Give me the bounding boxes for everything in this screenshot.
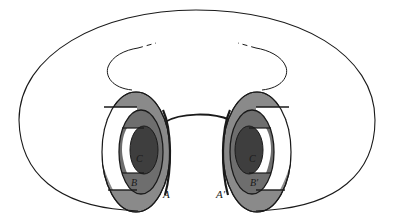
- label-right-a: A′: [215, 188, 226, 200]
- inner-hole-loop-left: [107, 48, 138, 90]
- inner-hole-loop-left-dash: [138, 43, 156, 48]
- label-right-c: C: [249, 153, 256, 164]
- inner-hole-loop-right: [256, 48, 287, 90]
- right-cuff: [223, 92, 292, 212]
- label-left-a: A: [162, 188, 170, 200]
- outer-contour: [19, 10, 375, 210]
- right-region-c: [235, 126, 263, 174]
- label-left-c: C: [136, 153, 143, 164]
- left-cuff: [101, 92, 170, 212]
- bridge-curve: [165, 115, 230, 122]
- label-left-b: B: [131, 177, 137, 188]
- inner-hole-loop-right-dash: [238, 43, 256, 48]
- label-right-b: B′: [250, 177, 259, 188]
- torus-diagram: C B A C B′ A′: [0, 0, 393, 223]
- left-region-c: [130, 126, 158, 174]
